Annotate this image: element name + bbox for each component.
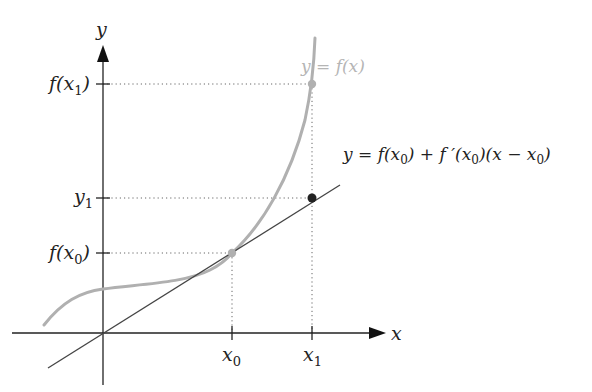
y1-label: y1 [73,185,93,211]
point-on-tangent-x1 [308,194,317,203]
y-axis-arrow-icon [97,45,109,62]
x1-label: x1 [303,343,322,369]
point-on-curve-x1 [308,80,316,88]
curve-label: y = f(x) [300,56,365,76]
fx0-label: f(x0) [47,241,90,267]
fx1-label: f(x1) [47,72,90,98]
x-axis-label: x [391,322,402,344]
tangent-label: y = f(x0) + f ′(x0)(x − x0) [342,144,551,167]
tangent-line [48,185,340,368]
x0-label: x0 [222,343,241,369]
axes [12,45,386,385]
point-on-curve-x0 [228,249,236,257]
y-axis-label: y [95,18,107,40]
linearization-diagram: y x x0 x1 f(x1) y1 f(x0) y = f(x) y = f(… [0,0,592,392]
x-axis-arrow-icon [369,327,386,339]
guide-lines [103,84,312,333]
